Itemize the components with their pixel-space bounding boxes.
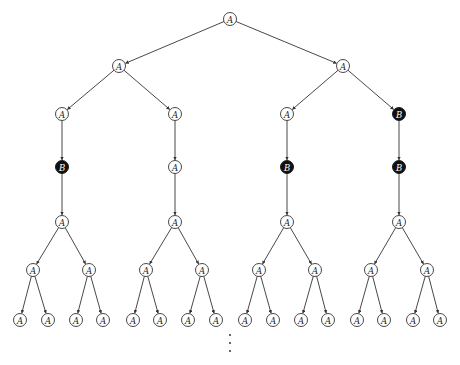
edge-arrow — [124, 70, 170, 109]
node-a: A — [27, 264, 40, 277]
node-label: A — [436, 316, 443, 326]
node-label: A — [16, 316, 23, 326]
node-label: A — [283, 218, 290, 228]
node-label: A — [142, 266, 149, 276]
node-label: B — [395, 163, 402, 173]
edge-arrow — [429, 276, 439, 313]
node-label: A — [171, 110, 178, 120]
node-label: A — [395, 218, 402, 228]
node-label: A — [353, 316, 360, 326]
node-label: A — [367, 266, 374, 276]
edge-arrow — [35, 276, 46, 313]
node-a: A — [14, 314, 27, 327]
node-a: A — [421, 264, 434, 277]
node-label: A — [58, 218, 65, 228]
edge-arrow — [148, 276, 158, 313]
edge-arrow — [317, 276, 327, 313]
node-label: B — [395, 110, 402, 120]
node-label: A — [115, 62, 122, 72]
node-label: A — [171, 163, 178, 173]
node-a: A — [281, 216, 294, 229]
edge-arrow — [78, 276, 88, 313]
edge-arrow — [375, 228, 396, 264]
tree-diagram: AAAAAABBABBAAAAAAAAAAAAAAAAAAAAAAAAAAAA — [0, 0, 460, 365]
edge-arrow — [91, 276, 101, 313]
edge-arrow — [402, 228, 423, 264]
node-a: A — [56, 216, 69, 229]
node-a: A — [224, 13, 237, 26]
node-a: A — [196, 264, 209, 277]
edge-arrow — [22, 276, 32, 313]
edge-arrow — [37, 228, 59, 264]
node-a: A — [378, 314, 391, 327]
node-label: A — [171, 218, 178, 228]
edge-arrow — [290, 228, 311, 264]
node-a: A — [140, 264, 153, 277]
node-a: A — [267, 314, 280, 327]
edge-arrow — [415, 276, 425, 313]
node-a: A — [351, 314, 364, 327]
node-label: A — [269, 316, 276, 326]
node-a: A — [322, 314, 335, 327]
node-a: A — [210, 314, 223, 327]
node-a: A — [295, 314, 308, 327]
node-a: A — [309, 264, 322, 277]
node-a: A — [434, 314, 447, 327]
node-label: A — [297, 316, 304, 326]
node-label: A — [198, 266, 205, 276]
node-label: A — [99, 316, 106, 326]
node-a: A — [56, 108, 69, 121]
node-label: A — [226, 15, 233, 25]
node-label: A — [44, 316, 51, 326]
tree-nodes: AAAAAABBABBAAAAAAAAAAAAAAAAAAAAAAAAAAAA — [14, 13, 447, 327]
edge-arrow — [65, 228, 85, 264]
ellipsis-dot — [229, 334, 231, 336]
edge-arrow — [261, 276, 271, 313]
node-a: A — [182, 314, 195, 327]
edge-arrow — [373, 276, 383, 313]
node-label: A — [423, 266, 430, 276]
node-label: A — [241, 316, 248, 326]
node-label: A — [255, 266, 262, 276]
node-label: A — [156, 316, 163, 326]
node-a: A — [97, 314, 110, 327]
node-a: A — [239, 314, 252, 327]
edge-arrow — [348, 70, 394, 109]
edge-arrow — [150, 228, 172, 264]
node-a: A — [169, 108, 182, 121]
node-a: A — [127, 314, 140, 327]
node-b: B — [281, 161, 294, 174]
node-label: A — [184, 316, 191, 326]
edge-arrow — [303, 276, 313, 313]
node-label: A — [129, 316, 136, 326]
edge-arrow — [178, 228, 198, 264]
node-b: B — [393, 161, 406, 174]
node-a: A — [42, 314, 55, 327]
node-a: A — [407, 314, 420, 327]
node-label: B — [58, 163, 65, 173]
node-label: A — [72, 316, 79, 326]
node-a: A — [113, 60, 126, 73]
node-a: A — [337, 60, 350, 73]
node-a: A — [253, 264, 266, 277]
node-label: A — [339, 62, 346, 72]
edge-arrow — [263, 228, 284, 264]
node-a: A — [169, 216, 182, 229]
node-a: A — [365, 264, 378, 277]
node-b: B — [56, 161, 69, 174]
edge-arrow — [67, 70, 114, 109]
ellipsis-dot — [229, 350, 231, 352]
edge-arrow — [247, 276, 257, 313]
node-a: A — [154, 314, 167, 327]
node-label: A — [212, 316, 219, 326]
edge-arrow — [236, 21, 337, 63]
node-label: A — [29, 266, 36, 276]
node-a: A — [281, 108, 294, 121]
ellipsis-dot — [229, 342, 231, 344]
edge-arrow — [125, 22, 224, 64]
edge-arrow — [135, 276, 145, 313]
edge-arrow — [359, 276, 369, 313]
edge-arrow — [292, 70, 338, 109]
edge-arrow — [204, 276, 214, 313]
node-label: A — [85, 266, 92, 276]
